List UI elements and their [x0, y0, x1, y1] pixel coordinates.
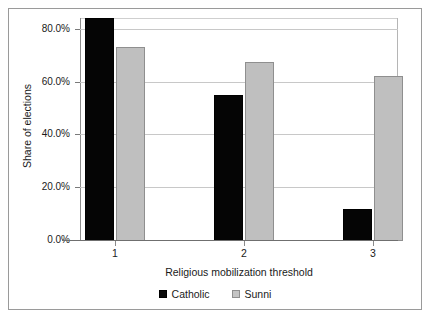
legend-label-catholic: Catholic — [172, 288, 210, 300]
x-tick-label-3: 3 — [353, 247, 393, 259]
x-tick-3 — [373, 241, 374, 246]
gridline-80 — [80, 29, 398, 30]
y-tick-40 — [75, 134, 80, 135]
x-axis-line — [62, 240, 398, 241]
x-axis-title: Religious mobilization threshold — [80, 266, 398, 278]
x-tick-label-1: 1 — [95, 247, 135, 259]
y-tick-80 — [75, 29, 80, 30]
y-tick-label-80: 80.0% — [14, 24, 70, 34]
legend-swatch-catholic-icon — [159, 290, 167, 298]
chart-legend: Catholic Sunni — [0, 288, 430, 300]
legend-item-sunni[interactable]: Sunni — [232, 288, 272, 300]
bar-catholic-2 — [214, 95, 243, 241]
bar-catholic-1 — [85, 18, 114, 241]
legend-item-catholic[interactable]: Catholic — [159, 288, 210, 300]
chart-screenshot: 80.0% 60.0% 40.0% 20.0% 0.0% Share of el… — [0, 0, 430, 322]
bar-sunni-1 — [116, 47, 145, 241]
y-axis-title: Share of elections — [21, 66, 33, 186]
plot-top-border — [80, 18, 398, 19]
legend-label-sunni: Sunni — [245, 288, 272, 300]
x-tick-2 — [244, 241, 245, 246]
bar-sunni-2 — [245, 62, 274, 241]
x-tick-1 — [115, 241, 116, 246]
y-axis-line — [80, 18, 81, 241]
x-tick-label-2: 2 — [224, 247, 264, 259]
y-tick-label-80-wrap: 80.0% — [14, 24, 70, 34]
legend-swatch-sunni-icon — [232, 290, 240, 298]
bar-catholic-3 — [343, 209, 372, 241]
bar-sunni-3 — [374, 76, 403, 241]
y-tick-20 — [75, 187, 80, 188]
y-tick-60 — [75, 82, 80, 83]
